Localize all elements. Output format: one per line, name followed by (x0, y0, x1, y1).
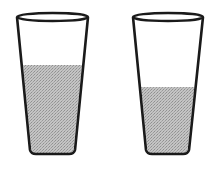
right-glass (133, 13, 203, 154)
liquid (141, 87, 194, 153)
glass-rim (17, 13, 88, 21)
glasses-diagram (0, 0, 209, 177)
glass-rim (133, 13, 203, 21)
left-glass (17, 13, 88, 154)
liquid (23, 65, 82, 153)
